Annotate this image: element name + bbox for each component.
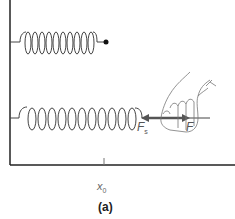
spring-force-label: Fs bbox=[137, 120, 148, 135]
bottom-spring bbox=[10, 107, 142, 130]
spring-diagram bbox=[0, 0, 235, 219]
figure-caption: (a) bbox=[98, 200, 113, 214]
applied-force-label: F bbox=[186, 120, 193, 134]
top-spring bbox=[10, 32, 105, 54]
spring-end-dot bbox=[104, 40, 109, 45]
x0-label: x0 bbox=[97, 180, 106, 194]
